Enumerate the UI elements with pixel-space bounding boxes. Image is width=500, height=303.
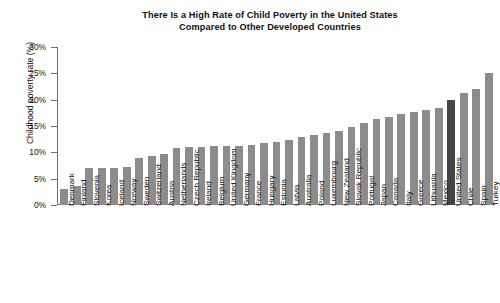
x-axis-label: Poland bbox=[318, 181, 326, 206]
x-axis-label: France bbox=[255, 181, 263, 206]
x-axis-label: Ireland bbox=[205, 181, 213, 206]
x-axis-label: Mexico bbox=[442, 180, 450, 206]
x-axis-label: Japan bbox=[380, 184, 388, 206]
x-axis-label: Finland bbox=[80, 179, 88, 206]
y-axis-tick-label: 0% bbox=[6, 201, 46, 209]
y-axis-tick-label: 10% bbox=[6, 148, 46, 156]
chart-title-line-2: Compared to Other Developed Countries bbox=[60, 22, 480, 34]
y-axis-tick bbox=[51, 47, 57, 48]
x-axis-label: Canada bbox=[392, 178, 400, 206]
x-axis-label: Germany bbox=[243, 173, 251, 206]
x-axis-label: Slovak Republic bbox=[355, 148, 363, 206]
x-axis-label: Switzerland bbox=[155, 164, 163, 206]
x-axis-label: Australia bbox=[305, 175, 313, 207]
x-axis-label: Belgium bbox=[218, 177, 226, 206]
x-axis-label: United States bbox=[455, 157, 463, 206]
x-axis-label: Italy bbox=[405, 191, 413, 206]
x-axis-label: New Zealand bbox=[343, 158, 351, 206]
chart-title-line-1: There Is a High Rate of Child Poverty in… bbox=[60, 10, 480, 22]
x-axis-label: Portugal bbox=[368, 176, 376, 206]
y-axis-tick bbox=[51, 126, 57, 127]
x-axis-label: Luxembourg bbox=[330, 161, 338, 206]
x-axis-label: Korea bbox=[105, 184, 113, 206]
x-axis-label: Latvia bbox=[293, 184, 301, 206]
x-axis-labels: DenmarkFinlandSloveniaKoreaIcelandNorway… bbox=[58, 206, 495, 302]
y-axis-tick bbox=[51, 205, 57, 206]
x-axis-label: Sweden bbox=[143, 177, 151, 206]
x-axis-label: Norway bbox=[130, 179, 138, 206]
x-axis-label: Estonia bbox=[280, 179, 288, 206]
x-axis-label: Denmark bbox=[68, 173, 76, 206]
x-axis-label: Netherlands bbox=[180, 162, 188, 206]
x-axis-label: Iceland bbox=[118, 180, 126, 206]
x-axis-label: Czech Republic bbox=[193, 149, 201, 206]
y-axis-tick-label: 30% bbox=[6, 43, 46, 51]
y-axis-tick bbox=[51, 100, 57, 101]
x-axis-label: Chile bbox=[467, 188, 475, 206]
chart-title: There Is a High Rate of Child Poverty in… bbox=[60, 10, 480, 33]
x-axis-label: Slovenia bbox=[93, 175, 101, 206]
y-axis-tick bbox=[51, 73, 57, 74]
x-axis-label: Lithuania bbox=[430, 173, 438, 206]
y-axis-tick-label: 20% bbox=[6, 96, 46, 104]
y-axis-tick-label: 25% bbox=[6, 69, 46, 77]
x-axis-label: Austria bbox=[168, 181, 176, 206]
x-axis-label: Greece bbox=[417, 179, 425, 206]
y-axis-tick bbox=[51, 152, 57, 153]
y-axis-tick bbox=[51, 179, 57, 180]
y-axis-tick-label: 15% bbox=[6, 122, 46, 130]
x-axis-label: United Kingdom bbox=[230, 148, 238, 206]
x-axis-label: Hungary bbox=[268, 175, 276, 206]
y-axis-tick-label: 5% bbox=[6, 175, 46, 183]
x-axis-label: Spain bbox=[480, 185, 488, 206]
x-axis-label: Turkey bbox=[492, 182, 500, 206]
